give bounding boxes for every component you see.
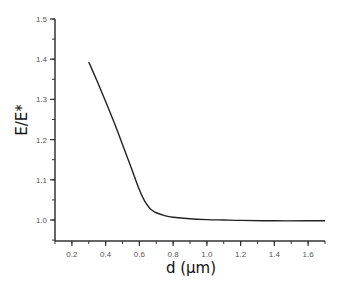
x-tick-label: 1.6	[303, 250, 315, 259]
x-tick-label: 0.4	[100, 250, 112, 259]
y-tick-label: 1.1	[36, 176, 48, 185]
y-tick-label: 1.4	[36, 55, 48, 64]
y-tick-label: 1.5	[36, 15, 48, 24]
x-tick-label: 1.0	[201, 250, 213, 259]
y-tick-label: 1.0	[36, 216, 48, 225]
series-line	[89, 62, 325, 221]
x-tick-label: 0.6	[134, 250, 146, 259]
series-layer	[89, 62, 325, 221]
y-axis-label: E/E*	[13, 104, 31, 136]
x-axis-label: d (μm)	[166, 259, 216, 277]
x-ticks: 0.20.40.60.81.01.21.41.6	[55, 241, 325, 259]
y-ticks: 1.01.11.21.31.41.5	[36, 15, 55, 240]
x-tick-label: 1.2	[235, 250, 247, 259]
x-tick-label: 0.8	[168, 250, 180, 259]
axes	[55, 19, 325, 241]
y-tick-label: 1.3	[36, 95, 48, 104]
x-tick-label: 1.4	[269, 250, 281, 259]
x-tick-label: 0.2	[66, 250, 78, 259]
y-tick-label: 1.2	[36, 136, 48, 145]
line-chart: 0.20.40.60.81.01.21.41.6 1.01.11.21.31.4…	[0, 0, 342, 293]
